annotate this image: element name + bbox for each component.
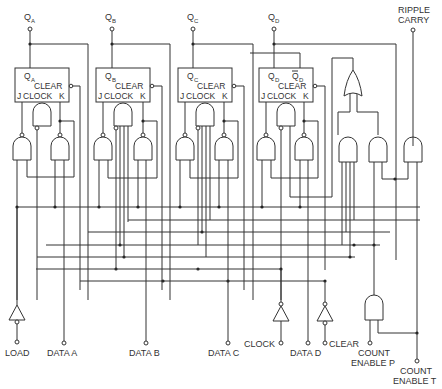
- svg-text:CLOCK: CLOCK: [267, 91, 297, 101]
- svg-text:CLOCK: CLOCK: [104, 91, 134, 101]
- svg-text:CLEAR: CLEAR: [34, 81, 62, 91]
- svg-text:K: K: [59, 91, 65, 101]
- output-terminal: [28, 27, 32, 31]
- carry-logic: [338, 70, 422, 333]
- svg-text:C: C: [194, 18, 199, 24]
- svg-text:DATA A: DATA A: [47, 348, 77, 358]
- svg-text:CARRY: CARRY: [398, 15, 429, 25]
- input-data-a: DATA A: [47, 285, 77, 358]
- svg-text:DATA B: DATA B: [129, 348, 160, 358]
- svg-text:D: D: [275, 18, 280, 24]
- svg-text:COUNT: COUNT: [400, 366, 432, 376]
- svg-text:Q: Q: [24, 12, 31, 22]
- svg-text:J: J: [98, 91, 102, 101]
- input-data-b: DATA B: [129, 320, 160, 358]
- svg-text:CLEAR: CLEAR: [115, 81, 143, 91]
- flipflop-c: Q C CLEAR J CLOCK K: [178, 68, 236, 102]
- svg-text:Q: Q: [105, 12, 112, 22]
- svg-text:ENABLE T: ENABLE T: [393, 376, 437, 386]
- svg-text:DATA C: DATA C: [208, 348, 240, 358]
- svg-text:CLEAR: CLEAR: [278, 81, 306, 91]
- output-terminal: [411, 28, 415, 32]
- svg-text:LOAD: LOAD: [5, 348, 30, 358]
- svg-text:CLOCK: CLOCK: [23, 91, 53, 101]
- bus-lines: [15, 205, 420, 282]
- svg-text:RIPPLE: RIPPLE: [398, 5, 430, 15]
- svg-text:K: K: [222, 91, 228, 101]
- svg-text:ENABLE P: ENABLE P: [351, 358, 395, 368]
- svg-text:Q: Q: [105, 71, 112, 81]
- input-count-enable-t: COUNT ENABLE T: [393, 333, 437, 386]
- svg-text:J: J: [180, 91, 184, 101]
- svg-text:K: K: [303, 91, 309, 101]
- svg-text:CLEAR: CLEAR: [197, 81, 225, 91]
- svg-text:COUNT: COUNT: [358, 348, 390, 358]
- svg-text:CLOCK: CLOCK: [244, 339, 275, 349]
- flipflop-d: Q D Q D CLEAR J CLOCK K: [259, 68, 317, 102]
- svg-text:J: J: [261, 91, 265, 101]
- svg-text:Q: Q: [292, 71, 299, 81]
- svg-text:J: J: [17, 91, 21, 101]
- svg-text:CLOCK: CLOCK: [186, 91, 216, 101]
- input-data-c: DATA C: [208, 283, 240, 358]
- input-load: LOAD: [5, 207, 30, 358]
- svg-text:DATA D: DATA D: [290, 348, 322, 358]
- flipflop-b: Q B CLEAR J CLOCK K: [96, 68, 154, 102]
- ripple-carry-output: RIPPLE CARRY: [398, 5, 430, 137]
- input-data-d: DATA D: [290, 318, 322, 358]
- stage-c-gates: [176, 102, 238, 283]
- svg-text:B: B: [112, 18, 116, 24]
- svg-text:Q: Q: [187, 12, 194, 22]
- input-clear: CLEAR: [317, 281, 360, 349]
- svg-text:K: K: [140, 91, 146, 101]
- output-terminal: [110, 27, 114, 31]
- flipflop-a: Q A CLEAR J CLOCK K: [15, 68, 73, 102]
- stage-a-gates: [13, 102, 74, 300]
- load-terminal: [15, 340, 19, 344]
- input-count-enable-p: COUNT ENABLE P: [351, 245, 419, 368]
- counter-schematic: Q A Q B Q C Q D RIPPLE CARRY: [0, 0, 442, 389]
- output-terminal: [272, 27, 276, 31]
- svg-text:Q: Q: [187, 71, 194, 81]
- stage-b-gates: [94, 102, 157, 320]
- svg-text:Q: Q: [268, 71, 275, 81]
- svg-text:A: A: [31, 18, 35, 24]
- svg-text:Q: Q: [24, 71, 31, 81]
- svg-text:Q: Q: [268, 12, 275, 22]
- schematic-canvas: Q A Q B Q C Q D RIPPLE CARRY: [0, 0, 442, 389]
- output-terminal: [191, 27, 195, 31]
- svg-text:CLEAR: CLEAR: [329, 339, 360, 349]
